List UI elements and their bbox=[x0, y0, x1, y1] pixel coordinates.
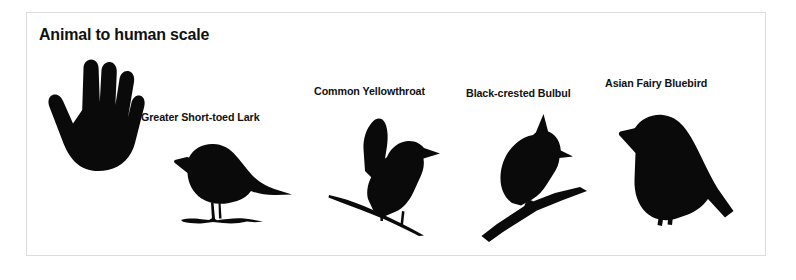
human-hand-silhouette bbox=[43, 55, 147, 179]
lark-body bbox=[174, 144, 292, 204]
page-title: Animal to human scale bbox=[39, 25, 209, 45]
yellowthroat-foot-right bbox=[401, 211, 405, 225]
scale-comparison-panel: Animal to human scale bbox=[26, 12, 766, 256]
hand-shape bbox=[48, 60, 144, 172]
lark-leg-front bbox=[211, 203, 215, 220]
bulbul-silhouette bbox=[467, 111, 597, 245]
figure-label-common-yellowthroat: Common Yellowthroat bbox=[314, 85, 425, 97]
figure-label-black-crested-bulbul: Black-crested Bulbul bbox=[466, 87, 571, 99]
lark-leg-back bbox=[219, 202, 222, 219]
bluebird-body bbox=[619, 115, 734, 220]
lark-ground bbox=[181, 218, 263, 224]
figure-label-asian-fairy-bluebird: Asian Fairy Bluebird bbox=[605, 77, 707, 89]
bluebird-silhouette bbox=[605, 107, 741, 235]
figure-label-greater-short-toed-lark: Greater Short-toed Lark bbox=[141, 111, 260, 123]
lark-silhouette bbox=[163, 137, 295, 233]
yellowthroat-silhouette bbox=[327, 111, 457, 239]
